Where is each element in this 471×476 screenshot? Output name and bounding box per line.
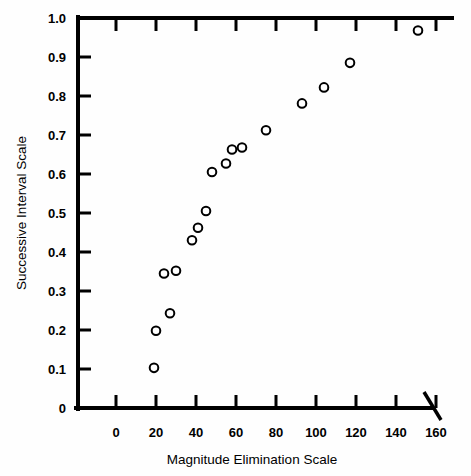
y-tick-label-6: 0.6 bbox=[48, 167, 66, 182]
data-point-14 bbox=[320, 83, 329, 92]
x-tick-label-2: 40 bbox=[189, 425, 203, 440]
x-tick-label-1: 20 bbox=[149, 425, 163, 440]
x-tick-label-5: 100 bbox=[305, 425, 327, 440]
data-point-12 bbox=[262, 126, 271, 135]
data-point-10 bbox=[228, 145, 237, 154]
x-tick-label-7: 140 bbox=[385, 425, 407, 440]
x-tick-label-8: 160 bbox=[425, 425, 447, 440]
y-axis-title: Successive Interval Scale bbox=[14, 136, 29, 290]
x-tick-label-0: 0 bbox=[112, 425, 119, 440]
data-point-6 bbox=[194, 224, 203, 233]
scatter-plot-figure: 00.10.20.30.40.50.60.70.80.91.0 02040608… bbox=[0, 0, 471, 476]
data-point-8 bbox=[208, 168, 217, 177]
y-tick-label-0: 0 bbox=[59, 401, 66, 416]
data-point-15 bbox=[346, 59, 355, 68]
data-point-5 bbox=[188, 236, 197, 245]
x-tick-label-6: 120 bbox=[345, 425, 367, 440]
y-tick-label-7: 0.7 bbox=[48, 128, 66, 143]
data-point-16 bbox=[414, 26, 423, 35]
x-tick-label-3: 60 bbox=[229, 425, 243, 440]
x-tick-group bbox=[116, 18, 436, 408]
y-tick-label-10: 1.0 bbox=[48, 11, 66, 26]
plot-canvas: 00.10.20.30.40.50.60.70.80.91.0 02040608… bbox=[0, 0, 471, 476]
data-point-group bbox=[150, 26, 423, 372]
x-tick-label-4: 80 bbox=[269, 425, 283, 440]
x-tick-label-group: 020406080100120140160 bbox=[112, 425, 446, 440]
data-point-3 bbox=[166, 309, 175, 318]
y-tick-label-group: 00.10.20.30.40.50.60.70.80.91.0 bbox=[48, 11, 67, 416]
y-tick-label-4: 0.4 bbox=[48, 245, 67, 260]
y-tick-label-1: 0.1 bbox=[48, 362, 66, 377]
data-point-13 bbox=[298, 99, 307, 108]
data-point-0 bbox=[150, 364, 159, 373]
y-tick-label-3: 0.3 bbox=[48, 284, 66, 299]
data-point-7 bbox=[202, 207, 211, 216]
data-point-11 bbox=[238, 143, 247, 152]
axes-group bbox=[76, 17, 452, 420]
y-tick-label-8: 0.8 bbox=[48, 89, 66, 104]
y-tick-label-9: 0.9 bbox=[48, 50, 66, 65]
y-tick-label-2: 0.2 bbox=[48, 323, 66, 338]
y-tick-label-5: 0.5 bbox=[48, 206, 66, 221]
data-point-2 bbox=[160, 269, 169, 278]
data-point-4 bbox=[172, 266, 181, 275]
x-axis-title: Magnitude Elimination Scale bbox=[167, 452, 337, 467]
data-point-9 bbox=[222, 159, 231, 168]
data-point-1 bbox=[152, 326, 161, 335]
